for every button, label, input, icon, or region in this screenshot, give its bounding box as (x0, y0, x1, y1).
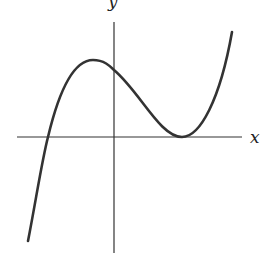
graph-canvas: x y (0, 0, 261, 264)
x-axis-label: x (250, 127, 260, 147)
y-axis-label: y (107, 0, 118, 11)
